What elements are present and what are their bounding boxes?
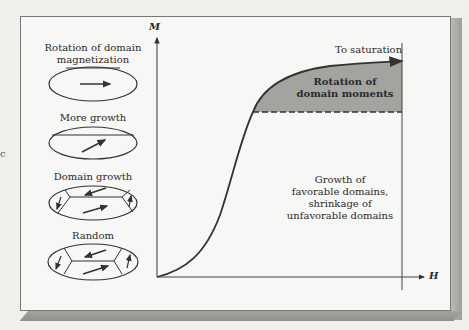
magnetization-arrow-icon [83, 206, 107, 213]
domain-state-label-random: Random [43, 230, 143, 242]
domain-state-label-more-growth: More growth [43, 112, 143, 124]
magnetization-arrow-icon [82, 140, 105, 152]
magnetization-arrow-icon [85, 188, 106, 195]
growth-region-label: Growth of favorable domains, shrinkage o… [280, 174, 400, 222]
magnetization-arrow-icon [85, 250, 106, 257]
domain-state-label-rotation: Rotation of domain magnetization [43, 42, 143, 66]
magnetization-arrow-icon [83, 266, 108, 274]
rotation-region-label: Rotation of domain moments [295, 76, 395, 100]
domain-state-random [48, 244, 138, 280]
domain-state-rotation [49, 67, 137, 101]
magnetization-arrow-icon [57, 197, 61, 209]
to-saturation-label: To saturation [335, 44, 401, 56]
magnetization-arrow-icon [129, 196, 131, 207]
domain-state-domain-growth [49, 186, 137, 220]
domain-state-more-growth [49, 127, 137, 159]
magnetization-arrow-icon [127, 255, 130, 268]
m-axis-label: M [149, 21, 160, 33]
domain-state-label-domain-growth: Domain growth [43, 171, 143, 183]
magnetization-arrow-icon [56, 256, 61, 269]
h-axis-label: H [429, 270, 438, 282]
